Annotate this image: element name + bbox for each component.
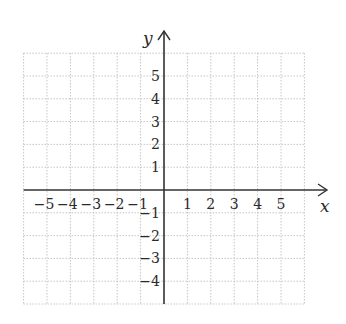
y-tick-label: 2 xyxy=(151,136,160,152)
x-tick-label: 4 xyxy=(253,196,262,212)
coordinate-plane: −5−4−3−2−112345 54321−1−2−3−4 x y xyxy=(0,0,346,324)
y-tick-label: 4 xyxy=(151,91,160,107)
x-tick-label: 2 xyxy=(206,196,215,212)
y-tick-label: 3 xyxy=(151,114,160,130)
x-tick-label: 3 xyxy=(230,196,239,212)
x-tick-label: −4 xyxy=(57,196,78,212)
y-tick-label: −1 xyxy=(139,205,160,221)
x-axis-label: x xyxy=(320,196,330,216)
y-tick-label: 1 xyxy=(151,159,160,175)
y-tick-label: −4 xyxy=(139,273,160,289)
y-axis-label: y xyxy=(142,28,153,48)
y-tick-label: 5 xyxy=(151,68,160,84)
y-tick-label: −2 xyxy=(139,228,160,244)
x-tick-label: −2 xyxy=(104,196,125,212)
y-tick-label: −3 xyxy=(139,250,160,266)
x-tick-label: 1 xyxy=(183,196,192,212)
x-tick-label: −3 xyxy=(80,196,101,212)
x-tick-label: −5 xyxy=(34,196,55,212)
x-tick-label: 5 xyxy=(277,196,286,212)
y-tick-labels: 54321−1−2−3−4 xyxy=(139,68,160,289)
